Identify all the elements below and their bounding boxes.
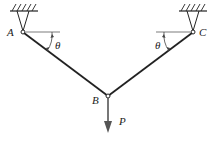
load-arrow-icon <box>104 98 112 133</box>
member-ab <box>24 33 108 96</box>
truss-diagram: A C B P θ θ <box>0 0 217 142</box>
joint-b <box>106 94 110 98</box>
label-a: A <box>6 26 14 38</box>
label-c: C <box>199 26 207 38</box>
label-p: P <box>118 115 126 127</box>
angle-arc-left-icon <box>46 32 54 51</box>
label-theta-left: θ <box>55 39 61 51</box>
member-cb <box>108 33 192 96</box>
label-b: B <box>92 94 99 106</box>
label-theta-right: θ <box>155 39 161 51</box>
angle-arc-right-icon <box>162 32 170 51</box>
left-support-icon <box>10 4 38 34</box>
